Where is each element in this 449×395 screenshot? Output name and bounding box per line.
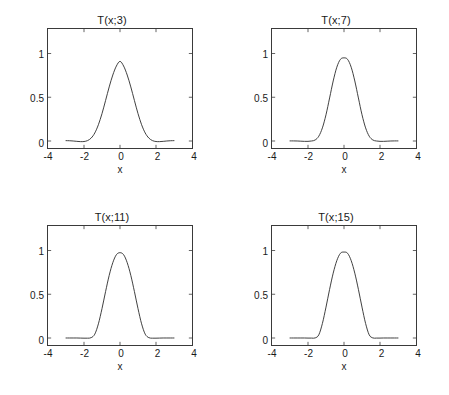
x-tick-label: 2 (379, 348, 385, 359)
x-tick-label: 4 (415, 348, 421, 359)
panel-title: T(x;11) (0, 211, 224, 224)
plot-area (48, 226, 192, 345)
x-tick-label: -4 (268, 151, 277, 162)
plot-panel-1: T(x;3) x -4-202400.51 (0, 0, 224, 197)
x-tick-label: -4 (44, 151, 53, 162)
x-tick-label: 2 (379, 151, 385, 162)
figure-canvas: T(x;3) x -4-202400.51 T(x;7) x -4-202400… (0, 0, 449, 395)
x-tick-label: 4 (191, 151, 197, 162)
y-tick-label: 0 (262, 334, 268, 345)
y-tick-label: 0 (262, 137, 268, 148)
plot-axes: x -4-202400.51 (47, 28, 193, 149)
y-tick-label: 0.5 (30, 93, 44, 104)
x-axis-label: x (272, 361, 416, 372)
plot-panel-2: T(x;7) x -4-202400.51 (224, 0, 448, 197)
x-axis-label: x (48, 164, 192, 175)
data-curve (290, 58, 398, 142)
x-tick-label: 2 (155, 348, 161, 359)
x-axis-label: x (48, 361, 192, 372)
plot-area (272, 29, 416, 148)
data-curve (290, 252, 398, 338)
x-tick-label: -4 (44, 348, 53, 359)
x-tick-label: 4 (415, 151, 421, 162)
x-tick-label: 4 (191, 348, 197, 359)
y-tick-label: 0 (38, 334, 44, 345)
y-tick-label: 0.5 (254, 93, 268, 104)
data-curve (66, 253, 174, 339)
x-tick-label: 2 (155, 151, 161, 162)
plot-area (272, 226, 416, 345)
data-curve (66, 61, 174, 141)
plot-panel-3: T(x;11) x -4-202400.51 (0, 197, 224, 394)
x-tick-label: -2 (80, 151, 89, 162)
x-tick-label: 0 (342, 151, 348, 162)
plot-panel-4: T(x;15) x -4-202400.51 (224, 197, 448, 394)
y-tick-label: 0.5 (254, 290, 268, 301)
x-tick-label: -2 (80, 348, 89, 359)
plot-area (48, 29, 192, 148)
panel-title: T(x;7) (224, 14, 448, 27)
x-tick-label: -2 (304, 151, 313, 162)
y-tick-label: 0 (38, 137, 44, 148)
panel-title: T(x;15) (224, 211, 448, 224)
x-tick-label: 0 (118, 151, 124, 162)
y-tick-label: 1 (38, 245, 44, 256)
x-tick-label: -4 (268, 348, 277, 359)
y-tick-label: 1 (38, 48, 44, 59)
y-tick-label: 1 (262, 245, 268, 256)
plot-axes: x -4-202400.51 (271, 225, 417, 346)
x-tick-label: -2 (304, 348, 313, 359)
panel-title: T(x;3) (0, 14, 224, 27)
x-tick-label: 0 (342, 348, 348, 359)
x-axis-label: x (272, 164, 416, 175)
y-tick-label: 0.5 (30, 290, 44, 301)
plot-axes: x -4-202400.51 (271, 28, 417, 149)
plot-axes: x -4-202400.51 (47, 225, 193, 346)
y-tick-label: 1 (262, 48, 268, 59)
x-tick-label: 0 (118, 348, 124, 359)
